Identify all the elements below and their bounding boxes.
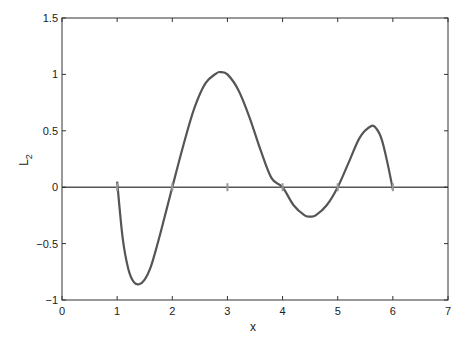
y-tick-label: −1 <box>45 294 58 306</box>
y-tick-label: 0.5 <box>43 125 58 137</box>
x-axis-label: x <box>250 320 256 334</box>
x-tick-label: 2 <box>169 305 175 317</box>
y-tick-label: 1 <box>52 68 58 80</box>
line-chart: 01234567−1−0.500.511.5 x L2 <box>0 0 464 344</box>
x-tick-label: 0 <box>59 305 65 317</box>
y-axis-label-subscript: 2 <box>24 154 34 159</box>
x-tick-label: 7 <box>445 305 451 317</box>
svg-text:L2: L2 <box>17 154 34 166</box>
axes-frame <box>62 18 448 300</box>
x-tick-label: 3 <box>224 305 230 317</box>
x-tick-label: 4 <box>280 305 286 317</box>
y-tick-label: −0.5 <box>36 238 58 250</box>
series-line-l2 <box>117 72 393 284</box>
x-tick-label: 1 <box>114 305 120 317</box>
x-tick-label: 5 <box>335 305 341 317</box>
x-tick-label: 6 <box>390 305 396 317</box>
y-tick-label: 1.5 <box>43 12 58 24</box>
y-tick-label: 0 <box>52 181 58 193</box>
plot-area <box>62 72 448 284</box>
y-axis-label: L2 <box>17 154 34 166</box>
